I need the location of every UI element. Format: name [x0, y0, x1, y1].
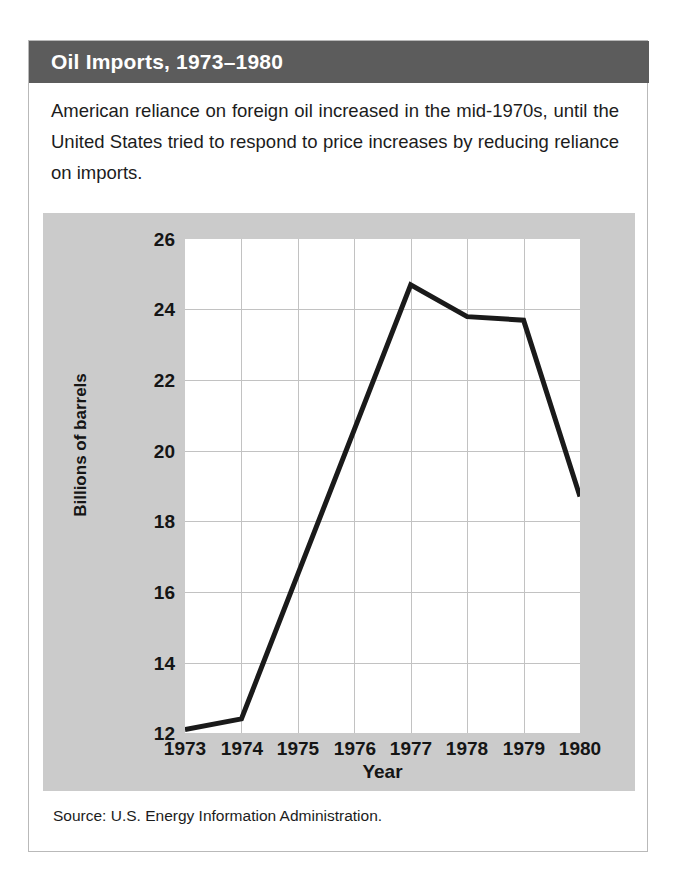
figure-container: Oil Imports, 1973–1980 American reliance… — [28, 40, 648, 852]
y-tick-16: 16 — [131, 583, 175, 602]
y-tick-22: 22 — [131, 371, 175, 390]
x-tick-1973: 1973 — [155, 739, 215, 759]
y-axis-label: Billions of barrels — [71, 335, 91, 555]
y-tick-24: 24 — [131, 300, 175, 319]
x-tick-1976: 1976 — [325, 739, 385, 759]
plot-area — [185, 239, 580, 733]
source-divider — [43, 791, 635, 792]
line-series-oil-imports — [185, 239, 580, 733]
x-tick-1977: 1977 — [381, 739, 441, 759]
y-tick-18: 18 — [131, 512, 175, 531]
x-tick-1980: 1980 — [550, 739, 610, 759]
figure-title-bar: Oil Imports, 1973–1980 — [29, 41, 649, 83]
y-tick-26: 26 — [131, 230, 175, 249]
x-tick-1978: 1978 — [437, 739, 497, 759]
chart-panel: Billions of barrels 26 24 22 20 18 1 — [43, 213, 635, 791]
figure-caption: American reliance on foreign oil increas… — [51, 95, 619, 188]
y-tick-20: 20 — [131, 442, 175, 461]
y-tick-14: 14 — [131, 654, 175, 673]
source-note: Source: U.S. Energy Information Administ… — [53, 807, 382, 825]
page-title: Oil Imports, 1973–1980 — [51, 50, 283, 74]
x-tick-1975: 1975 — [268, 739, 328, 759]
x-tick-1974: 1974 — [212, 739, 272, 759]
x-axis-label: Year — [185, 761, 580, 783]
x-tick-1979: 1979 — [494, 739, 554, 759]
